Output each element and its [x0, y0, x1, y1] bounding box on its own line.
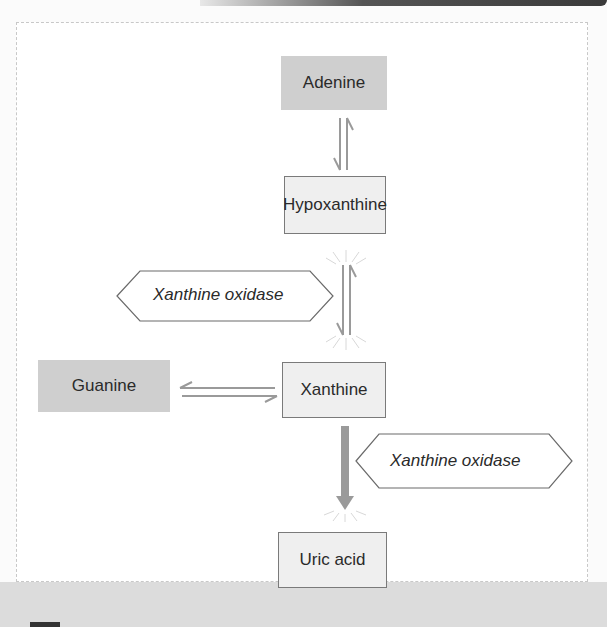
node-adenine: Adenine: [281, 56, 387, 110]
node-xanthine: Xanthine: [282, 362, 386, 418]
reversible-arrow-adenine-hypoxanthine: [334, 118, 353, 170]
glow-icon: [326, 250, 366, 350]
reversible-arrow-hypoxanthine-xanthine: [337, 265, 356, 335]
node-label: Hypoxanthine: [283, 195, 387, 215]
enzyme-label-1: Xanthine oxidase: [153, 285, 283, 305]
enzyme-label-2: Xanthine oxidase: [390, 451, 520, 471]
node-uric-acid: Uric acid: [278, 532, 387, 588]
node-label: Guanine: [72, 376, 136, 396]
node-guanine: Guanine: [38, 360, 170, 412]
node-label: Adenine: [303, 73, 365, 93]
node-hypoxanthine: Hypoxanthine: [284, 176, 386, 234]
node-label: Uric acid: [299, 550, 365, 570]
node-label: Xanthine: [300, 380, 367, 400]
irreversible-arrow-xanthine-uric-acid: [324, 426, 366, 522]
reversible-arrow-guanine-xanthine: [180, 382, 277, 402]
